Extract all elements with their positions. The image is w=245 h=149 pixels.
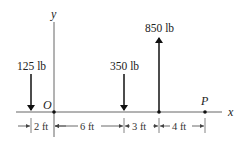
force-350lb: 350 lb — [110, 60, 139, 110]
dimension-label: 4 ft — [172, 121, 186, 132]
dimension-6ft: 6 ft — [55, 121, 123, 132]
x-axis-label: x — [227, 105, 234, 119]
dimension-label: 6 ft — [80, 121, 94, 132]
force-125lb: 125 lb — [17, 60, 46, 110]
dimension-2ft: 2 ft — [18, 121, 66, 132]
beam-force-diagram: y x O P 125 lb 350 lb 850 lb 2 ft 6 — [0, 0, 245, 149]
origin-point — [52, 110, 56, 114]
force-label: 350 lb — [110, 60, 139, 72]
dimension-3ft: 3 ft — [125, 121, 158, 132]
force-850lb: 850 lb — [145, 22, 174, 114]
point-p — [203, 110, 207, 114]
origin-label: O — [43, 98, 52, 112]
dimension-4ft: 4 ft — [160, 121, 204, 132]
force-label: 125 lb — [17, 60, 46, 72]
y-axis-label: y — [50, 7, 57, 21]
dimension-label: 2 ft — [34, 121, 48, 132]
force-label: 850 lb — [145, 22, 174, 34]
point-p-label: P — [200, 94, 209, 108]
dimension-label: 3 ft — [132, 121, 146, 132]
